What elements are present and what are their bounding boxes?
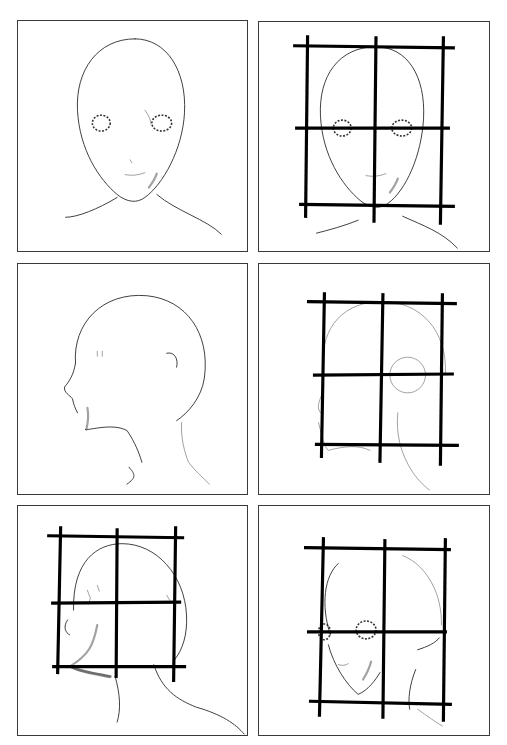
panel-front-view <box>17 20 248 252</box>
front-head-sketch <box>18 21 247 251</box>
proportion-grid <box>49 528 185 681</box>
three-quarter-head-grid-sketch <box>259 506 489 735</box>
panel-side-view-grid <box>258 263 490 495</box>
panel-side-view <box>17 263 248 495</box>
proportion-grid <box>295 37 454 223</box>
profile-head-sketch <box>18 264 247 494</box>
right-eye-icon <box>152 115 172 131</box>
profile-head-grid-sketch <box>259 264 489 494</box>
panel-front-view-grid <box>258 21 490 252</box>
panel-three-quarter-view-grid <box>258 505 490 736</box>
rear-profile-grid-sketch <box>18 506 247 735</box>
left-eye-icon <box>92 115 110 131</box>
front-head-grid-sketch <box>259 22 489 251</box>
panel-side-view-grid-shaded <box>17 505 248 736</box>
proportion-grid <box>306 539 451 720</box>
proportion-grid <box>309 294 458 465</box>
